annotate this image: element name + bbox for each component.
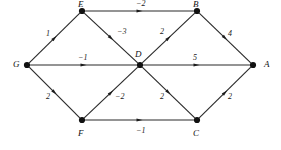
- edge-weight-D-C: 2: [160, 93, 164, 101]
- arrowhead-F-C: [137, 118, 143, 121]
- arrowhead-E-B: [137, 9, 143, 12]
- node-G: [24, 62, 30, 68]
- edge-weight-D-B: 2: [160, 28, 164, 36]
- edge-weight-E-B: −2: [136, 0, 145, 8]
- edge-weight-F-C: −1: [136, 127, 145, 135]
- node-label-C: C: [193, 129, 199, 138]
- node-F: [79, 117, 85, 123]
- graph-figure: 1−12−2−3252−2−142GEFDBCA: [0, 0, 281, 150]
- edge-weight-G-F: 2: [46, 93, 50, 101]
- edge-weight-E-D: −3: [117, 28, 126, 36]
- edge-weight-C-A: 2: [228, 93, 232, 101]
- node-label-D: D: [135, 50, 142, 59]
- node-label-A: A: [264, 60, 270, 69]
- edge-weight-G-E: 1: [46, 30, 50, 38]
- edge-weight-B-A: 4: [228, 30, 232, 38]
- arrowhead-G-D: [81, 63, 87, 66]
- node-C: [194, 117, 200, 123]
- node-A: [250, 62, 256, 68]
- edge-weight-F-D: −2: [115, 93, 124, 101]
- node-D: [137, 62, 143, 68]
- node-label-B: B: [193, 0, 199, 9]
- edge-weight-D-A: 5: [193, 54, 197, 62]
- node-label-G: G: [13, 60, 20, 69]
- edge-weight-G-D: −1: [78, 54, 87, 62]
- arrowhead-D-A: [194, 63, 200, 66]
- node-label-F: F: [78, 129, 84, 138]
- node-label-E: E: [78, 0, 84, 9]
